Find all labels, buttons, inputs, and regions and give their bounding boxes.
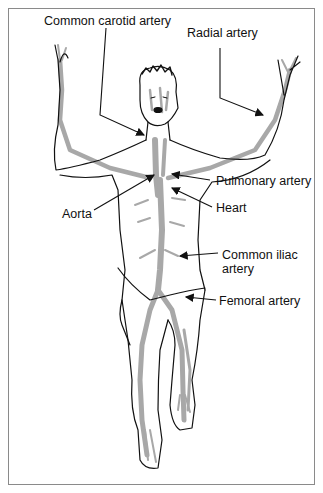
femoral-leader bbox=[186, 297, 216, 300]
carotid-leader bbox=[100, 28, 144, 135]
label-heart: Heart bbox=[216, 201, 247, 215]
label-common-carotid-artery: Common carotid artery bbox=[44, 14, 171, 28]
arterial-system-illustration bbox=[0, 0, 323, 493]
label-femoral-artery: Femoral artery bbox=[219, 294, 300, 308]
label-radial-artery: Radial artery bbox=[187, 26, 258, 40]
label-pulmonary-artery: Pulmonary artery bbox=[216, 174, 311, 188]
radial-leader bbox=[220, 48, 263, 115]
label-aorta: Aorta bbox=[62, 207, 92, 221]
label-common-iliac-line2: artery bbox=[222, 262, 254, 276]
label-common-iliac-line1: Common iliac bbox=[222, 248, 298, 262]
aorta-leader bbox=[94, 175, 154, 210]
